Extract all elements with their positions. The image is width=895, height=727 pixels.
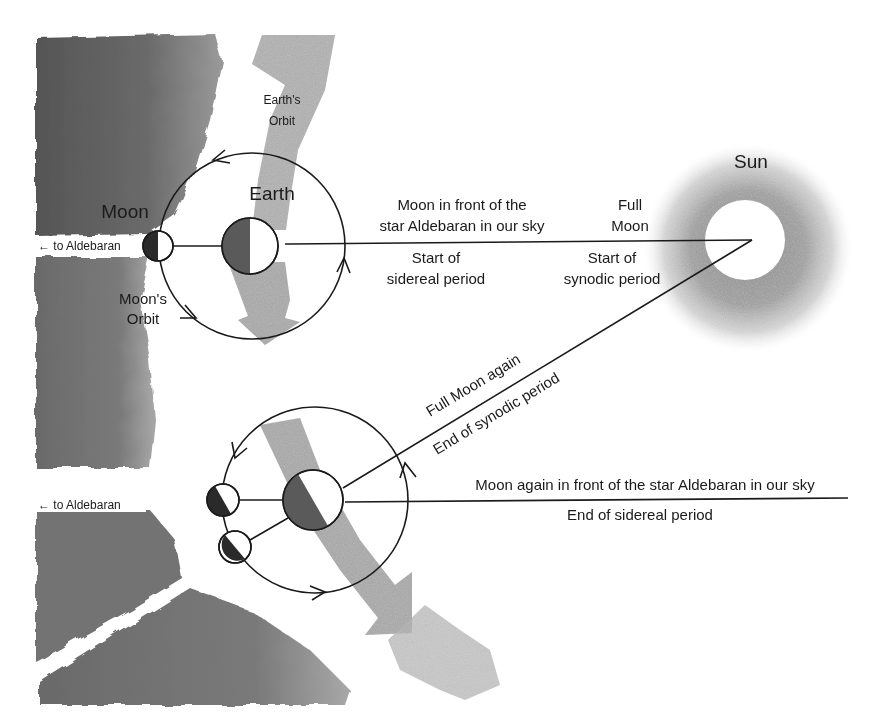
to-aldebaran-label-2: ← to Aldebaran bbox=[38, 498, 121, 512]
earths-orbit-band bbox=[228, 35, 500, 700]
earth-to-moon-line-2b bbox=[250, 518, 288, 540]
earth-1-shadow bbox=[222, 218, 250, 274]
moon-in-front-label-line1: Moon in front of the bbox=[397, 196, 526, 213]
moon-1-shadow bbox=[143, 231, 158, 261]
to-aldebaran-label-1: ← to Aldebaran bbox=[38, 239, 121, 253]
earths-orbit-label-line1: Earth's bbox=[264, 93, 301, 107]
start-sidereal-label-line2: sidereal period bbox=[387, 270, 485, 287]
full-moon-label-line1: Full bbox=[618, 196, 642, 213]
sky-wash-middle bbox=[36, 257, 155, 468]
lunar-period-diagram: Sun Earth's Orbit Earth Moon Moon's O bbox=[0, 0, 895, 727]
moons-orbit-label-line2: Orbit bbox=[127, 310, 160, 327]
earths-orbit-band-lower bbox=[260, 418, 412, 635]
end-sidereal-label: End of sidereal period bbox=[567, 506, 713, 523]
moon-1 bbox=[143, 231, 173, 261]
moon-label: Moon bbox=[101, 201, 149, 222]
earth-label: Earth bbox=[249, 183, 294, 204]
moon-sidereal bbox=[207, 484, 239, 516]
start-sidereal-label-line1: Start of bbox=[412, 249, 461, 266]
earths-orbit-label-line2: Orbit bbox=[269, 114, 296, 128]
start-synodic-label-line1: Start of bbox=[588, 249, 637, 266]
orbit-arrow-icon-upper-right bbox=[400, 463, 416, 478]
sun: Sun bbox=[643, 143, 853, 353]
earths-orbit-band-mid bbox=[228, 262, 300, 345]
start-synodic-label-line2: synodic period bbox=[564, 270, 661, 287]
full-moon-label-line2: Moon bbox=[611, 217, 649, 234]
moon-again-in-front-label: Moon again in front of the star Aldebara… bbox=[475, 476, 815, 493]
earth-2 bbox=[283, 470, 343, 530]
earth-1 bbox=[222, 218, 278, 274]
aldebaran-line-2 bbox=[345, 498, 848, 502]
sun-label: Sun bbox=[734, 151, 768, 172]
end-synodic-label: End of synodic period bbox=[430, 369, 562, 458]
moon-in-front-label-line2: star Aldebaran in our sky bbox=[379, 217, 545, 234]
moon-synodic bbox=[219, 531, 251, 563]
moons-orbit-label-line1: Moon's bbox=[119, 290, 167, 307]
